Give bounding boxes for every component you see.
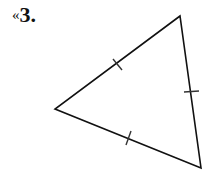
triangle	[55, 16, 201, 168]
tick-mark-right-side	[184, 91, 199, 92]
triangle-figure	[0, 0, 218, 184]
